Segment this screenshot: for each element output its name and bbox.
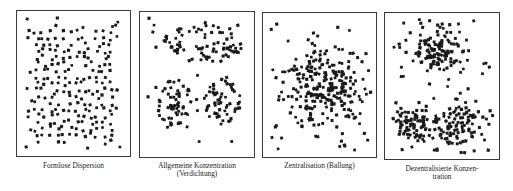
point-marker xyxy=(74,81,78,85)
point-marker xyxy=(158,100,161,103)
point-marker xyxy=(50,63,53,66)
point-marker xyxy=(147,17,150,20)
point-marker xyxy=(455,42,458,45)
point-marker xyxy=(421,125,424,128)
point-marker xyxy=(330,119,333,122)
point-marker xyxy=(409,31,412,34)
point-marker xyxy=(481,72,484,75)
point-marker xyxy=(219,95,222,98)
point-marker xyxy=(42,83,45,86)
point-marker xyxy=(472,19,475,22)
point-marker xyxy=(446,132,449,135)
point-marker xyxy=(321,63,324,66)
point-marker xyxy=(437,62,440,65)
point-marker xyxy=(433,127,437,131)
point-marker xyxy=(82,51,86,55)
point-marker xyxy=(440,22,443,25)
point-marker xyxy=(63,70,66,73)
point-marker xyxy=(448,23,451,26)
point-marker xyxy=(294,116,297,119)
point-marker xyxy=(104,143,107,146)
point-marker xyxy=(200,51,203,54)
point-marker xyxy=(53,36,57,40)
point-marker xyxy=(50,81,54,85)
point-marker xyxy=(89,116,93,120)
point-marker xyxy=(215,50,218,53)
point-marker xyxy=(319,100,322,103)
point-marker xyxy=(458,105,461,108)
point-marker xyxy=(75,127,78,130)
point-marker xyxy=(435,30,439,34)
point-marker xyxy=(74,110,77,113)
point-marker xyxy=(454,37,457,40)
point-marker xyxy=(419,120,422,123)
point-marker xyxy=(485,117,488,120)
point-marker xyxy=(270,136,273,139)
point-marker xyxy=(316,34,320,38)
point-marker xyxy=(230,49,233,52)
point-marker xyxy=(55,44,59,48)
point-marker xyxy=(338,97,341,100)
point-marker xyxy=(473,131,476,134)
point-marker xyxy=(491,114,494,117)
point-marker xyxy=(222,47,225,50)
caption-line-1: Formlose Dispersion xyxy=(16,162,131,170)
point-marker xyxy=(358,122,361,125)
point-marker xyxy=(313,100,316,103)
point-marker xyxy=(195,30,198,33)
point-marker xyxy=(86,47,90,51)
point-marker xyxy=(308,69,312,73)
point-marker xyxy=(300,125,303,128)
point-marker xyxy=(82,114,86,118)
point-marker xyxy=(302,73,306,77)
point-marker xyxy=(81,129,85,133)
point-marker xyxy=(477,110,480,113)
point-marker xyxy=(349,80,352,83)
point-marker xyxy=(62,37,66,41)
point-marker xyxy=(238,101,241,104)
point-marker xyxy=(309,75,312,78)
point-marker xyxy=(426,55,429,58)
point-marker xyxy=(88,76,92,80)
point-marker xyxy=(336,26,339,29)
point-marker xyxy=(228,27,232,31)
point-marker xyxy=(334,45,337,48)
point-marker xyxy=(102,106,106,110)
point-marker xyxy=(54,108,57,111)
point-marker xyxy=(100,93,104,97)
point-marker xyxy=(431,136,435,140)
point-marker xyxy=(83,103,87,107)
point-marker xyxy=(151,30,155,34)
point-marker xyxy=(399,126,403,130)
point-marker xyxy=(275,22,279,26)
point-marker xyxy=(442,27,445,30)
point-marker xyxy=(33,100,36,103)
point-marker xyxy=(410,145,414,149)
point-marker xyxy=(234,50,237,53)
point-marker xyxy=(457,22,460,25)
point-marker xyxy=(29,128,32,131)
point-marker xyxy=(487,123,490,126)
point-marker xyxy=(460,122,463,125)
point-marker xyxy=(406,133,409,136)
point-marker xyxy=(104,135,107,138)
point-marker xyxy=(27,29,30,32)
point-marker xyxy=(43,96,46,99)
point-marker xyxy=(313,87,316,90)
point-marker xyxy=(435,148,438,151)
point-marker xyxy=(438,68,441,71)
point-marker xyxy=(446,127,449,130)
point-marker xyxy=(448,122,451,125)
point-marker xyxy=(304,85,307,88)
point-marker xyxy=(434,43,437,46)
point-marker xyxy=(186,113,189,116)
point-marker xyxy=(174,37,177,40)
point-marker xyxy=(169,96,172,99)
point-marker xyxy=(290,105,293,108)
point-marker xyxy=(326,58,329,61)
point-marker xyxy=(330,103,333,106)
point-marker xyxy=(360,60,364,64)
point-marker xyxy=(48,43,51,46)
point-marker xyxy=(236,23,240,27)
caption-allgemeine-konzentration: Allgemeine Konzentration (Verdichtung) xyxy=(135,162,259,178)
